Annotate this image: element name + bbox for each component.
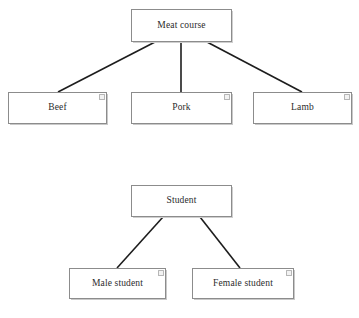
- node-label: Male student: [92, 279, 143, 289]
- resize-handle-icon[interactable]: [99, 94, 105, 100]
- connector-student-to-male-student: [117, 217, 163, 268]
- node-student[interactable]: Student: [131, 185, 232, 217]
- node-label: Beef: [48, 103, 67, 113]
- node-label: Female student: [213, 279, 273, 289]
- node-male-student[interactable]: Male student: [69, 268, 166, 299]
- node-label: Lamb: [291, 103, 314, 113]
- node-female-student[interactable]: Female student: [192, 268, 294, 299]
- connector-meat-course-to-lamb: [207, 42, 302, 92]
- node-label: Student: [166, 196, 196, 206]
- resize-handle-icon[interactable]: [286, 270, 292, 276]
- node-pork[interactable]: Pork: [131, 92, 232, 124]
- connector-meat-course-to-beef: [58, 42, 155, 92]
- node-meat-course[interactable]: Meat course: [131, 9, 232, 42]
- node-label: Meat course: [157, 21, 205, 31]
- resize-handle-icon[interactable]: [344, 94, 350, 100]
- connector-layer: [0, 0, 359, 318]
- node-lamb[interactable]: Lamb: [253, 92, 352, 124]
- connector-student-to-female-student: [200, 217, 240, 268]
- node-beef[interactable]: Beef: [8, 92, 107, 124]
- resize-handle-icon[interactable]: [224, 94, 230, 100]
- diagram-canvas: Meat course Beef Pork Lamb Student Male …: [0, 0, 359, 318]
- node-label: Pork: [172, 103, 191, 113]
- resize-handle-icon[interactable]: [158, 270, 164, 276]
